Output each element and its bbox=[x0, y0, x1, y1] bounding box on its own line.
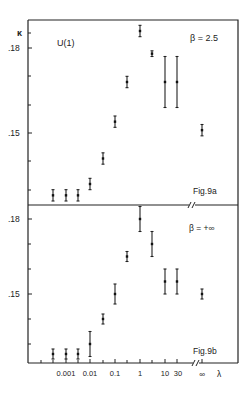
data-point bbox=[114, 284, 117, 304]
top-beta-annotation: β = 2.5 bbox=[190, 33, 218, 43]
data-point bbox=[164, 57, 167, 108]
data-point bbox=[176, 269, 179, 294]
top-y-axis-label: κ bbox=[17, 28, 23, 38]
top-chart-title: U(1) bbox=[57, 38, 75, 48]
bottom-tick-label-18: .18 bbox=[8, 214, 20, 224]
data-point bbox=[102, 314, 105, 324]
data-point bbox=[77, 190, 80, 201]
data-point bbox=[65, 190, 68, 201]
axis-break-bottom bbox=[192, 360, 199, 366]
data-point bbox=[52, 349, 55, 359]
data-point bbox=[114, 116, 117, 127]
x-tick-label-0001: 0.001 bbox=[57, 369, 76, 378]
data-point bbox=[126, 76, 129, 87]
x-tick-label-01: 0.1 bbox=[110, 369, 120, 378]
x-tick-label-10: 10 bbox=[161, 369, 169, 378]
figure-9: κ .18 .15 U(1) β = 2.5 Fig.9a .18 .15 β … bbox=[0, 0, 251, 395]
x-tick-label-30: 30 bbox=[174, 369, 182, 378]
x-tick-label-1: 1 bbox=[138, 369, 142, 378]
data-point bbox=[201, 289, 204, 299]
data-point bbox=[52, 190, 55, 201]
x-tick-label-001: 0.01 bbox=[83, 369, 98, 378]
data-point bbox=[102, 153, 105, 164]
bottom-tick-label-15: .15 bbox=[8, 289, 20, 299]
data-point bbox=[65, 349, 68, 359]
top-figure-label: Fig.9a bbox=[193, 186, 217, 196]
bottom-figure-label: Fig.9b bbox=[193, 346, 217, 356]
top-tick-label-18: .18 bbox=[8, 43, 20, 53]
data-point bbox=[151, 232, 154, 257]
data-point bbox=[151, 51, 154, 57]
x-tick-label-infinity: ∞ bbox=[199, 370, 205, 379]
x-axis-label-lambda: λ bbox=[217, 369, 222, 379]
data-point bbox=[89, 178, 92, 189]
data-point bbox=[139, 25, 142, 36]
bottom-data-points bbox=[52, 207, 204, 360]
top-tick-label-15: .15 bbox=[8, 128, 20, 138]
data-point bbox=[176, 57, 179, 108]
data-point bbox=[164, 269, 167, 294]
top-data-points bbox=[52, 25, 204, 201]
data-point bbox=[89, 332, 92, 357]
data-point bbox=[77, 349, 80, 359]
bottom-beta-annotation: β = +∞ bbox=[189, 223, 215, 233]
data-point bbox=[139, 207, 142, 232]
data-point bbox=[201, 125, 204, 136]
axis-break-top bbox=[188, 202, 195, 208]
data-point bbox=[126, 252, 129, 262]
